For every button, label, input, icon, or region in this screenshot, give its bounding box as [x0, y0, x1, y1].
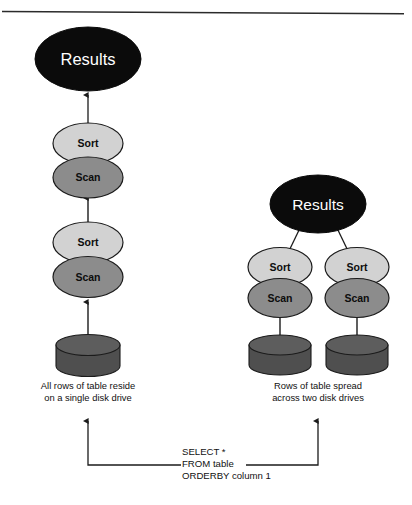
right-stage-scan-right-label: Scan: [344, 292, 369, 304]
top-rule: [2, 12, 404, 14]
left-stage-scan-upper[interactable]: Scan: [53, 157, 123, 198]
sql-line-select: SELECT *: [182, 446, 226, 457]
right-stage-sort-right-label: Sort: [347, 261, 369, 273]
left-stage-scan-lower[interactable]: Scan: [53, 257, 123, 298]
right-pipeline: Sort Scan Sort Scan: [248, 175, 389, 403]
right-caption-line2: across two disk drives: [272, 392, 364, 403]
right-disk-drive-1[interactable]: [249, 335, 311, 375]
left-caption-line2: on a single disk drive: [44, 392, 132, 403]
left-caption-line1: All rows of table reside: [41, 380, 135, 391]
right-stage-sort-left-label: Sort: [270, 261, 292, 273]
right-caption-line1: Rows of table spread: [274, 380, 362, 391]
left-pipeline: Sort Scan Sort Scan Results: [35, 27, 141, 403]
connector-right-elbow: [246, 421, 318, 465]
right-branch-left: Sort Scan: [248, 248, 312, 376]
right-stage-scan-right[interactable]: Scan: [325, 279, 389, 318]
sql-line-orderby: ORDERBY column 1: [182, 470, 271, 481]
left-stage-sort-lower-label: Sort: [78, 236, 100, 248]
disk-top: [326, 335, 388, 355]
right-disk-drive-2[interactable]: [326, 335, 388, 375]
right-results-label: Results: [292, 196, 344, 213]
left-disk-drive[interactable]: [56, 335, 120, 377]
disk-top: [249, 335, 311, 355]
sql-query-block: SELECT * FROM table ORDERBY column 1: [182, 446, 271, 481]
left-stage-scan-upper-label: Scan: [75, 171, 100, 183]
right-stage-scan-left-label: Scan: [267, 292, 292, 304]
diagram-svg: Sort Scan Sort Scan Results: [0, 0, 412, 505]
left-stage-scan-lower-label: Scan: [75, 271, 100, 283]
right-stage-scan-left[interactable]: Scan: [248, 279, 312, 318]
left-stage-sort-upper-label: Sort: [78, 137, 100, 149]
right-results-node[interactable]: Results: [270, 175, 366, 233]
disk-top: [56, 335, 120, 356]
connector-left-elbow: [88, 421, 181, 465]
left-results-node[interactable]: Results: [35, 27, 141, 91]
sql-line-from: FROM table: [182, 458, 234, 469]
left-results-label: Results: [60, 50, 115, 68]
right-branch-right: Sort Scan: [325, 248, 389, 376]
figure-canvas: Sort Scan Sort Scan Results: [0, 0, 412, 505]
